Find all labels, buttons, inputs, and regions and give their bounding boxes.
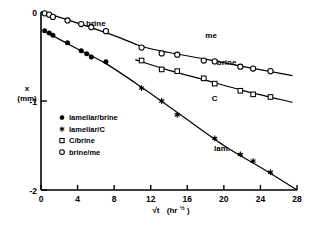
x-axis-label-sqrt-t: √t (152, 206, 159, 215)
plot-legend: lamellar/brinelamellar/CC/brinebrine/me (60, 113, 118, 157)
x-tick-label: 12 (146, 194, 156, 204)
region-label-brine-mid: brine (217, 58, 237, 67)
y-axis-ticks (41, 12, 47, 190)
x-tick-label: 20 (219, 194, 229, 204)
x-axis-label-unit-close: ) (187, 206, 190, 215)
data-point (175, 112, 180, 118)
data-point (84, 51, 89, 56)
scatter-plot: 0481216202428 0-1-2 brinemebrineClam. la… (0, 0, 313, 225)
data-point (238, 64, 243, 69)
legend-marker-open-square (60, 138, 64, 142)
lamellar-curve (43, 31, 297, 190)
x-tick-label: 4 (75, 194, 80, 204)
data-point (79, 21, 84, 26)
x-axis-label-unit-open: (hr (167, 206, 178, 215)
series-lamellar-C (139, 85, 273, 175)
x-axis-label: √t (hr ½ ) (152, 203, 189, 215)
y-tick-label: 0 (32, 8, 37, 18)
data-point (159, 67, 164, 72)
y-axis-label-symbol: x (25, 84, 30, 93)
data-point (251, 66, 256, 71)
data-point (65, 18, 70, 23)
legend-label: lamellar/C (69, 125, 105, 134)
data-point (268, 69, 273, 74)
data-point (139, 45, 144, 50)
fit-curves (43, 12, 297, 190)
x-tick-label: 28 (292, 194, 302, 204)
region-label-c: C (212, 94, 218, 103)
data-point (50, 14, 55, 19)
data-point (251, 92, 256, 97)
legend-marker-open-circle (60, 150, 65, 155)
data-point (175, 52, 180, 57)
x-axis-label-exponent: ½ (180, 205, 185, 211)
data-point (42, 28, 47, 33)
data-point (175, 69, 180, 74)
chart-figure: 0481216202428 0-1-2 brinemebrineClam. la… (0, 0, 313, 225)
x-axis-tick-labels: 0481216202428 (39, 194, 302, 204)
data-point (103, 29, 108, 34)
x-tick-label: 0 (39, 194, 44, 204)
data-point (268, 95, 273, 100)
data-point (50, 33, 55, 38)
series-C-brine (139, 58, 273, 99)
y-axis-label-units: (mm) (17, 94, 37, 103)
data-point (79, 48, 84, 53)
data-point (212, 81, 217, 86)
region-label-brine-upper: brine (86, 19, 106, 28)
x-tick-label: 24 (256, 194, 266, 204)
data-point (159, 51, 164, 56)
y-tick-label: -2 (29, 186, 37, 196)
data-point (201, 76, 206, 81)
data-point (251, 158, 256, 164)
region-label-me: me (205, 31, 217, 40)
data-point (89, 54, 94, 59)
x-tick-label: 8 (112, 194, 117, 204)
data-point (103, 59, 108, 64)
plot-axes (41, 12, 297, 190)
legend-label: lamellar/brine (69, 113, 118, 122)
legend-label: C/brine (69, 136, 95, 145)
legend-label: brine/me (69, 148, 100, 157)
data-point (139, 58, 144, 63)
data-point (65, 40, 70, 45)
legend-marker-star (60, 126, 65, 131)
region-label-lam: lam. (214, 144, 230, 153)
series-brine-me (42, 11, 273, 74)
data-point (201, 58, 206, 63)
legend-marker-filled-circle (60, 115, 65, 120)
data-point (238, 88, 243, 93)
